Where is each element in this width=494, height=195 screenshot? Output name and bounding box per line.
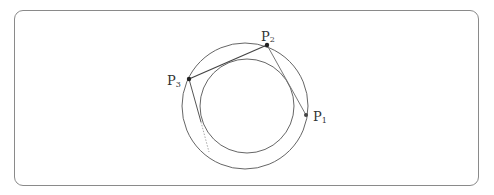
point-p1 <box>304 113 308 117</box>
label-p1: P1 <box>313 109 327 125</box>
label-p2: P2 <box>261 29 275 44</box>
segment-p2-p3 <box>189 45 267 79</box>
diagram-canvas: P2 P3 P1 <box>0 0 494 195</box>
inner-circle <box>200 59 294 153</box>
outer-circle <box>182 43 308 169</box>
label-p3: P3 <box>167 73 181 89</box>
point-p3 <box>187 77 191 81</box>
segment-p3-tangent <box>189 79 201 122</box>
segment-p1-p2 <box>267 45 306 115</box>
